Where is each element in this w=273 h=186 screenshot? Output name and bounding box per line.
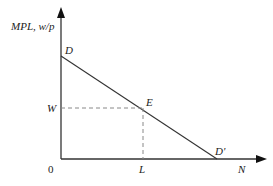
x-axis-arrow-icon	[256, 155, 267, 163]
x-axis-label: N	[237, 163, 246, 175]
wage-label: W	[47, 102, 57, 114]
y-axis-label: MPL, w/p	[10, 20, 55, 32]
point-d-label: D	[64, 44, 73, 56]
point-e-label: E	[145, 96, 153, 108]
y-axis-arrow-icon	[57, 7, 65, 18]
labor-label: L	[138, 163, 145, 175]
labor-market-diagram: MPL, w/p D E D' W L N 0	[0, 0, 273, 186]
point-d-prime-label: D'	[214, 145, 226, 157]
origin-label: 0	[48, 163, 54, 175]
